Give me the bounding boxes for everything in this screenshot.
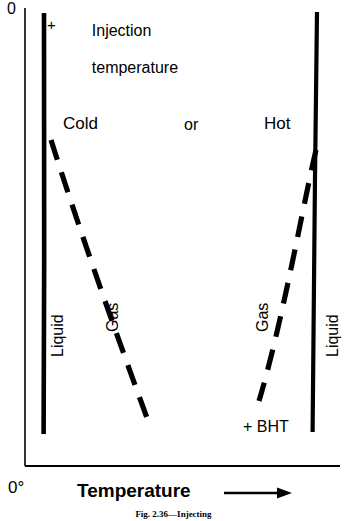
injection-marker-plus: +: [47, 16, 56, 33]
label-cold: Cold: [63, 114, 98, 133]
injection-temperature-label: Injection temperature: [74, 4, 178, 95]
curve-hot-gas: [259, 150, 316, 401]
label-gas-left: Gas: [104, 303, 122, 332]
label-bht: + BHT: [243, 418, 289, 436]
label-gas-right: Gas: [254, 303, 272, 332]
curve-cold-gas: [51, 140, 150, 426]
curve-cold-liquid: [44, 13, 45, 434]
x-axis-title: Temperature: [77, 480, 191, 502]
injection-temperature-line-1: Injection: [92, 22, 152, 39]
label-or: or: [184, 116, 198, 134]
figure-caption: Fig. 2.36—Injecting: [0, 509, 347, 521]
label-liquid-left: Liquid: [49, 314, 67, 357]
curve-hot-liquid: [313, 12, 317, 432]
injection-temperature-line-2: temperature: [92, 59, 178, 76]
figure-container: 0 + Injection temperature Cold or Hot Li…: [0, 0, 347, 521]
label-liquid-right: Liquid: [324, 314, 342, 357]
label-hot: Hot: [264, 114, 290, 133]
y-axis-bottom-label: 0°: [8, 478, 24, 497]
y-axis-top-label: 0: [7, 0, 16, 18]
right-arrow-icon: [224, 488, 292, 499]
